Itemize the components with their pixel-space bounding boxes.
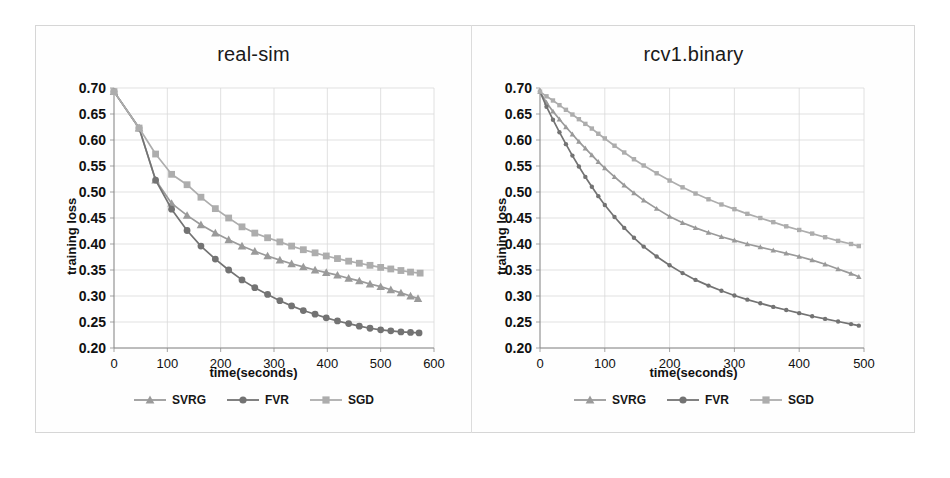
marker-square-sgd xyxy=(693,191,697,195)
marker-square-sgd xyxy=(538,89,542,93)
marker-square-sgd xyxy=(654,171,658,175)
marker-circle-fvr xyxy=(168,206,175,213)
marker-square-sgd xyxy=(345,258,352,265)
marker-square-sgd xyxy=(612,144,616,148)
y-tick-label: 0.55 xyxy=(505,158,532,174)
marker-circle-fvr xyxy=(564,142,568,146)
marker-circle-fvr xyxy=(596,194,600,198)
marker-circle-fvr xyxy=(239,276,246,283)
marker-square-sgd xyxy=(732,207,736,211)
legend-item-sgd: SGD xyxy=(309,393,374,407)
marker-square-sgd xyxy=(184,181,191,188)
marker-circle-fvr xyxy=(583,175,587,179)
marker-square-sgd xyxy=(225,215,232,222)
marker-square-sgd xyxy=(377,264,384,271)
marker-square-sgd xyxy=(603,136,607,140)
marker-square-sgd xyxy=(622,150,626,154)
marker-circle-fvr xyxy=(654,254,658,258)
y-axis-label-right: training loss xyxy=(494,198,509,275)
marker-circle-fvr xyxy=(300,307,307,314)
marker-circle-fvr xyxy=(377,326,384,333)
marker-circle-fvr xyxy=(367,325,374,332)
marker-square-sgd xyxy=(198,194,205,201)
marker-square-sgd xyxy=(398,267,405,274)
marker-circle-fvr xyxy=(570,153,574,157)
y-tick-label: 0.50 xyxy=(79,184,106,200)
marker-circle-fvr xyxy=(680,271,684,275)
marker-square-sgd xyxy=(387,266,394,273)
marker-square-sgd xyxy=(551,98,555,102)
marker-circle-fvr xyxy=(152,177,159,184)
marker-square-sgd xyxy=(641,163,645,167)
figure-container: real-sim 0.200.250.300.350.400.450.500.5… xyxy=(0,0,950,478)
marker-square-sgd xyxy=(276,239,283,246)
marker-square-sgd xyxy=(836,239,840,243)
y-tick-label: 0.60 xyxy=(79,132,106,148)
marker-square-sgd xyxy=(323,253,330,260)
marker-circle-fvr xyxy=(198,243,205,250)
marker-square-sgd xyxy=(745,212,749,216)
marker-square-sgd xyxy=(771,220,775,224)
marker-square-sgd xyxy=(570,112,574,116)
marker-circle-fvr xyxy=(288,302,295,309)
y-tick-label: 0.55 xyxy=(79,158,106,174)
marker-circle-fvr xyxy=(225,267,232,274)
marker-square-sgd xyxy=(823,235,827,239)
legend-item-fvr: FVR xyxy=(666,393,729,407)
marker-square-sgd xyxy=(136,125,143,132)
marker-circle-fvr xyxy=(577,164,581,168)
marker-circle-fvr xyxy=(356,323,363,330)
marker-circle-fvr xyxy=(590,185,594,189)
marker-square-sgd xyxy=(583,122,587,126)
marker-square-sgd xyxy=(758,216,762,220)
marker-circle-fvr xyxy=(732,293,736,297)
legend-item-sgd: SGD xyxy=(749,393,814,407)
marker-circle-fvr xyxy=(719,289,723,293)
y-tick-label: 0.25 xyxy=(505,314,532,330)
marker-square-sgd xyxy=(810,231,814,235)
marker-square-sgd xyxy=(667,178,671,182)
legend-item-fvr: FVR xyxy=(226,393,289,407)
legend-label: SVRG xyxy=(612,393,646,407)
triangle-marker xyxy=(573,393,607,407)
marker-square-sgd xyxy=(564,108,568,112)
marker-circle-fvr xyxy=(398,328,405,335)
marker-circle-fvr xyxy=(345,320,352,327)
y-tick-label: 0.20 xyxy=(79,340,106,356)
legend-label: SVRG xyxy=(172,393,206,407)
square-marker xyxy=(749,393,783,407)
marker-circle-fvr xyxy=(212,256,219,263)
marker-circle-fvr xyxy=(323,314,330,321)
y-axis-label-left: training loss xyxy=(64,198,79,275)
marker-square-sgd xyxy=(557,103,561,107)
marker-square-sgd xyxy=(857,244,861,248)
marker-square-sgd xyxy=(300,246,307,253)
y-tick-label: 0.65 xyxy=(505,106,532,122)
y-tick-label: 0.30 xyxy=(505,288,532,304)
marker-circle-fvr xyxy=(612,215,616,219)
marker-circle-fvr xyxy=(622,226,626,230)
y-tick-label: 0.25 xyxy=(79,314,106,330)
marker-circle-fvr xyxy=(251,284,258,291)
legend-label: SGD xyxy=(788,393,814,407)
circle-marker xyxy=(666,393,700,407)
marker-square-sgd xyxy=(334,255,341,262)
marker-square-sgd xyxy=(544,94,548,98)
marker-square-sgd xyxy=(264,234,271,241)
marker-square-sgd xyxy=(784,224,788,228)
marker-circle-fvr xyxy=(276,297,283,304)
marker-circle-fvr xyxy=(416,330,423,337)
marker-square-sgd xyxy=(168,171,175,178)
marker-circle-fvr xyxy=(745,297,749,301)
legend-item-svrg: SVRG xyxy=(133,393,206,407)
marker-circle-fvr xyxy=(641,244,645,248)
square-marker xyxy=(309,393,343,407)
legend-left: SVRGFVRSGD xyxy=(36,393,471,407)
marker-circle-fvr xyxy=(810,314,814,318)
marker-circle-fvr xyxy=(312,311,319,318)
y-tick-label: 0.30 xyxy=(79,288,106,304)
legend-right: SVRGFVRSGD xyxy=(472,393,915,407)
legend-label: FVR xyxy=(265,393,289,407)
y-tick-label: 0.60 xyxy=(505,132,532,148)
marker-square-sgd xyxy=(797,228,801,232)
